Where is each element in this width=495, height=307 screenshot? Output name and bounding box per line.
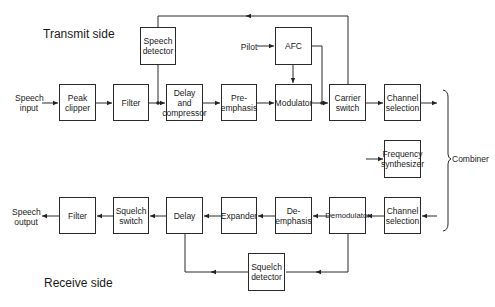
speech-detector-block: Speech detector <box>140 27 176 65</box>
demodulator-block: Demodulator <box>329 197 366 234</box>
combiner-label: Combiner <box>452 154 489 164</box>
carrier-switch-block: Carrier switch <box>329 84 366 121</box>
expander-block: Expander <box>221 197 257 234</box>
de-emphasis-block: De- emphasis <box>275 197 312 234</box>
transmit-filter-block: Filter <box>113 84 149 121</box>
speech-output-label: Speech output <box>12 207 40 227</box>
squelch-detector-block: Squelch detector <box>248 253 285 291</box>
frequency-synthesizer-block: Frequency synthesizer <box>384 140 421 178</box>
receive-filter-block: Filter <box>59 197 96 234</box>
pre-emphasis-block: Pre- emphasis <box>221 84 257 121</box>
modulator-block: Modulator <box>275 84 312 121</box>
delay-compressor-block: Delay and compressor <box>166 84 203 121</box>
pilot-label: Pilot <box>240 42 258 52</box>
afc-block: AFC <box>275 27 312 65</box>
speech-input-label: Speech input <box>15 93 43 113</box>
squelch-switch-block: Squelch switch <box>113 197 149 234</box>
receive-delay-block: Delay <box>166 197 203 234</box>
peak-clipper-block: Peak clipper <box>59 84 96 121</box>
receive-channel-selection-block: Channel selection <box>384 197 421 234</box>
transmit-side-title: Transmit side <box>43 27 115 41</box>
transmit-channel-selection-block: Channel selection <box>384 84 421 121</box>
receive-side-title: Receive side <box>44 276 113 290</box>
